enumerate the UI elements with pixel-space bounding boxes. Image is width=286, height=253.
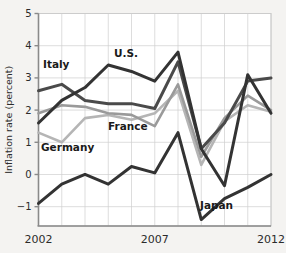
x-axis-tick-label: 2012 bbox=[257, 233, 285, 246]
x-axis-tick-label: 2002 bbox=[25, 233, 53, 246]
y-axis-tick-label: 5 bbox=[25, 8, 31, 19]
inflation-rate-line-chart: 543210−1 200220072012 ItalyU.S.FranceGer… bbox=[0, 0, 285, 253]
series-label-germany: Germany bbox=[41, 141, 94, 153]
x-axis-tick-label: 2007 bbox=[141, 233, 169, 246]
y-axis-tick-label: 2 bbox=[25, 105, 31, 116]
y-axis-title-text: Inflation rate (percent) bbox=[3, 66, 14, 174]
y-axis-tick-labels: 543210−1 bbox=[17, 8, 39, 212]
chart-canvas: 543210−1 200220072012 ItalyU.S.FranceGer… bbox=[0, 0, 285, 253]
y-axis-tick-label: 3 bbox=[25, 72, 31, 83]
y-axis-title: Inflation rate (percent) bbox=[3, 66, 14, 174]
series-label-france: France bbox=[108, 120, 148, 132]
y-axis-tick-label: 1 bbox=[25, 137, 31, 148]
y-axis-tick-label: 0 bbox=[25, 169, 31, 180]
x-axis-tick-labels: 200220072012 bbox=[25, 233, 286, 246]
series-label-italy: Italy bbox=[43, 58, 70, 70]
series-label-japan: Japan bbox=[199, 199, 233, 211]
series-label-us: U.S. bbox=[114, 47, 138, 59]
y-axis-tick-label: 4 bbox=[25, 40, 31, 51]
y-axis-tick-label: −1 bbox=[17, 201, 32, 212]
